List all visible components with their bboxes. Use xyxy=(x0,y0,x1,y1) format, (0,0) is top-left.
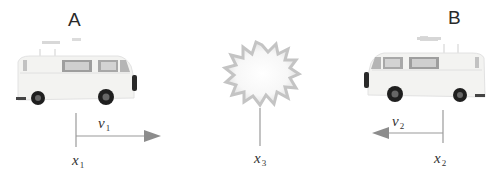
position-symbol: x xyxy=(254,150,261,166)
velocity-arrow-v1 xyxy=(76,130,161,142)
position-subscript: 3 xyxy=(262,158,267,168)
velocity-symbol: v xyxy=(98,115,105,131)
position-label-x3: x3 xyxy=(254,150,266,168)
velocity-label-v2: v2 xyxy=(392,113,404,131)
velocity-arrow-v2 xyxy=(372,127,443,139)
vehicle-b-label: B xyxy=(448,7,461,29)
position-label-x2: x2 xyxy=(434,150,446,168)
position-symbol: x xyxy=(72,152,79,168)
position-label-x1: x1 xyxy=(72,152,84,170)
velocity-subscript: 2 xyxy=(400,121,405,131)
velocity-label-v1: v1 xyxy=(98,115,110,133)
position-subscript: 2 xyxy=(442,158,447,168)
velocity-subscript: 1 xyxy=(106,123,111,133)
velocity-symbol: v xyxy=(392,113,399,129)
van-b-icon xyxy=(364,36,485,102)
vehicle-a-label: A xyxy=(68,9,81,31)
explosion-burst-icon xyxy=(225,42,299,105)
position-subscript: 1 xyxy=(80,160,85,170)
position-symbol: x xyxy=(434,150,441,166)
van-a-icon xyxy=(16,38,137,105)
